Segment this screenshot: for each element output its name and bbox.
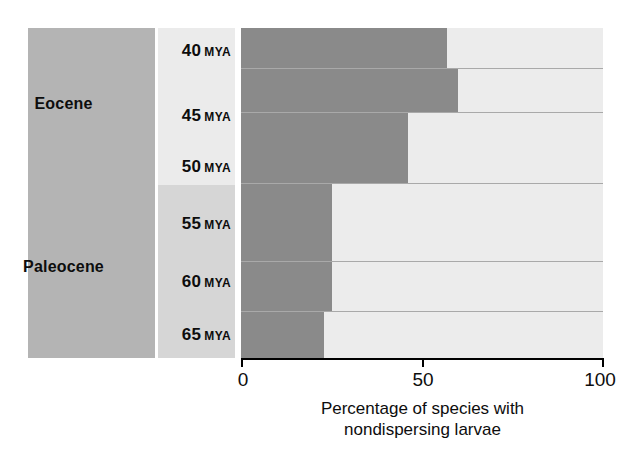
time-tick-unit: MYA [204, 276, 231, 290]
time-tick-value: 50 [182, 157, 202, 176]
x-axis-tick-50 [422, 358, 424, 367]
time-tick-40mya: 40MYA [158, 41, 231, 61]
bar-fill [241, 184, 332, 262]
bar-row-50mya [241, 113, 603, 184]
x-axis-caption-line-2: nondispersing larvae [241, 419, 604, 440]
x-axis-caption-line-1: Percentage of species with [241, 398, 604, 419]
time-tick-unit: MYA [204, 218, 231, 232]
x-axis-tick-100 [602, 358, 604, 367]
bar-row-55mya [241, 184, 603, 262]
time-tick-unit: MYA [204, 45, 231, 59]
bar-fill [241, 262, 332, 312]
time-tick-value: 60 [182, 272, 202, 291]
chart-figure: Eocene Paleocene 40MYA 45MYA 50MYA 55MYA… [0, 0, 641, 460]
time-tick-value: 40 [182, 41, 202, 60]
time-tick-60mya: 60MYA [158, 272, 231, 292]
time-tick-50mya: 50MYA [158, 157, 231, 177]
time-tick-value: 65 [182, 325, 202, 344]
bar-row-45mya [241, 69, 603, 113]
x-axis-label-50: 50 [412, 369, 433, 391]
row-separator [241, 311, 603, 312]
time-tick-65mya: 65MYA [158, 325, 231, 345]
bar-row-40mya [241, 28, 603, 69]
x-axis-tick-0 [241, 358, 243, 367]
row-separator [241, 183, 603, 184]
time-tick-unit: MYA [204, 329, 231, 343]
bar-row-60mya [241, 262, 603, 312]
plot-area [241, 28, 603, 358]
time-tick-55mya: 55MYA [158, 214, 231, 234]
time-tick-value: 55 [182, 214, 202, 233]
time-tick-value: 45 [182, 106, 202, 125]
time-tick-45mya: 45MYA [158, 106, 231, 126]
row-separator [241, 68, 603, 69]
bar-fill [241, 28, 447, 69]
bar-row-65mya [241, 312, 603, 358]
bar-fill [241, 69, 458, 113]
time-tick-unit: MYA [204, 110, 231, 124]
bar-fill [241, 312, 324, 358]
row-separator [241, 112, 603, 113]
epoch-label-paleocene: Paleocene [0, 258, 127, 276]
time-tick-unit: MYA [204, 161, 231, 175]
geologic-epoch-column [28, 28, 155, 358]
x-axis-label-100: 100 [584, 369, 616, 391]
bar-fill [241, 113, 408, 184]
epoch-label-eocene: Eocene [0, 95, 127, 113]
x-axis-caption: Percentage of species with nondispersing… [241, 398, 604, 440]
x-axis-label-0: 0 [238, 369, 249, 391]
row-separator [241, 261, 603, 262]
